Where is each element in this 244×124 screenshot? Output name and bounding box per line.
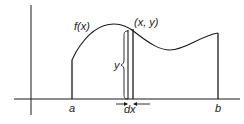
right-bound-label: b (215, 102, 221, 114)
function-curve (72, 24, 218, 60)
height-brace (121, 31, 128, 99)
height-label: y (113, 59, 121, 71)
point-label: (x, y) (134, 16, 159, 28)
width-label: dx (124, 103, 136, 115)
left-bound-label: a (69, 102, 75, 114)
function-label: f(x) (74, 20, 90, 32)
area-diagram: f(x) (x, y) y a b dx (0, 0, 244, 124)
